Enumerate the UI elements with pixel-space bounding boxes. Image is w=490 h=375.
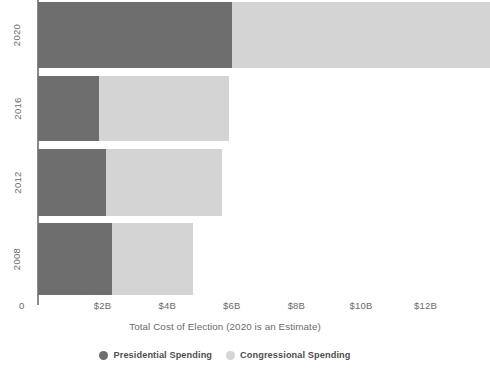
y-axis-label-2016: 2016 bbox=[0, 76, 34, 141]
bar-segment-2016-presidential bbox=[38, 76, 99, 141]
legend-label-presidential: Presidential Spending bbox=[113, 350, 212, 360]
bar-segment-2020-congressional bbox=[232, 2, 490, 68]
bar-segment-2016-congressional bbox=[99, 76, 228, 141]
x-axis-tick-2: $2B bbox=[94, 300, 112, 311]
bar-segment-2012-congressional bbox=[106, 149, 222, 216]
bar-segment-2020-presidential bbox=[38, 2, 232, 68]
x-axis-tick-0: 0 bbox=[19, 300, 24, 311]
circle-marker-dark-icon bbox=[99, 351, 108, 360]
legend-label-congressional: Congressional Spending bbox=[240, 350, 350, 360]
x-axis-tick-12: $12B bbox=[414, 300, 437, 311]
bar-segment-2012-presidential bbox=[38, 149, 106, 216]
bar-2012 bbox=[38, 149, 222, 216]
legend-item-presidential[interactable]: Presidential Spending bbox=[99, 350, 212, 360]
bar-segment-2008-presidential bbox=[38, 223, 112, 295]
bar-2020 bbox=[38, 2, 490, 68]
y-axis-label-2020: 2020 bbox=[0, 2, 34, 68]
bar-2016 bbox=[38, 76, 229, 141]
x-axis-tick-8: $8B bbox=[288, 300, 306, 311]
x-axis-tick-10: $10B bbox=[350, 300, 373, 311]
circle-marker-light-icon bbox=[226, 351, 235, 360]
y-axis-label-2008: 2008 bbox=[0, 223, 34, 295]
bar-2008 bbox=[38, 223, 193, 295]
legend-item-congressional[interactable]: Congressional Spending bbox=[226, 350, 350, 360]
bar-segment-2008-congressional bbox=[112, 223, 193, 295]
x-axis-tick-6: $6B bbox=[223, 300, 241, 311]
x-axis-title: Total Cost of Election (2020 is an Estim… bbox=[0, 321, 450, 332]
y-axis-label-2012: 2012 bbox=[0, 149, 34, 216]
chart-legend: Presidential Spending Congressional Spen… bbox=[0, 350, 450, 360]
x-axis-tick-4: $4B bbox=[158, 300, 176, 311]
